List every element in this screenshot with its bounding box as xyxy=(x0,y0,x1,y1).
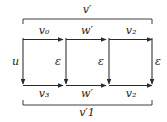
arrow-label-vertical-4: ε xyxy=(155,56,161,67)
arrow-label-top-1: v₀ xyxy=(39,25,50,36)
bottom-bracket-label: v′1 xyxy=(79,107,95,118)
arrow-label-bottom-3: v₂ xyxy=(126,88,137,99)
top-bracket-label: v′ xyxy=(83,4,92,15)
arrow-label-top-2: w′ xyxy=(81,25,93,36)
arrow-label-vertical-1: u xyxy=(12,56,19,67)
bottom-bracket xyxy=(23,100,152,105)
vertical-arrows xyxy=(23,38,152,84)
commutative-diagram: v′ v₀ w′ v₂ u ε ε ε v₃ w′ v₂ v′1 xyxy=(0,0,167,122)
arrow-label-vertical-2: ε xyxy=(55,56,61,67)
arrow-label-top-3: v₂ xyxy=(126,25,137,36)
diagram-canvas xyxy=(0,0,167,122)
arrow-label-vertical-3: ε xyxy=(98,56,104,67)
arrow-label-bottom-2: w′ xyxy=(81,88,93,99)
arrow-label-bottom-1: v₃ xyxy=(39,88,50,99)
